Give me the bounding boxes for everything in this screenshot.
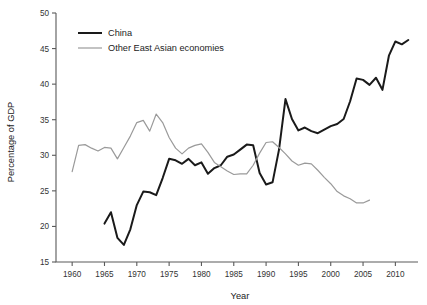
data-series <box>72 40 408 245</box>
x-tick-label: 1980 <box>192 270 211 279</box>
x-tick-label: 1990 <box>257 270 276 279</box>
y-tick-label: 45 <box>40 45 50 54</box>
y-axis-ticks: 1520253035404550 <box>40 9 56 267</box>
x-tick-label: 1965 <box>95 270 114 279</box>
y-tick-label: 35 <box>40 116 50 125</box>
x-tick-label: 1975 <box>160 270 179 279</box>
x-tick-label: 1970 <box>128 270 147 279</box>
y-tick-label: 30 <box>40 151 50 160</box>
chart-legend: ChinaOther East Asian economies <box>78 28 224 53</box>
x-tick-label: 1985 <box>225 270 244 279</box>
x-axis-ticks: 1960196519701975198019851990199520002005… <box>63 262 405 279</box>
legend-label-other-east-asian[interactable]: Other East Asian economies <box>108 43 224 53</box>
chart-container: 1520253035404550 19601965197019751980198… <box>0 0 427 305</box>
x-tick-label: 1995 <box>289 270 308 279</box>
x-tick-label: 2005 <box>354 270 373 279</box>
x-axis-label: Year <box>231 291 250 301</box>
y-tick-label: 20 <box>40 222 50 231</box>
x-tick-label: 2010 <box>386 270 405 279</box>
series-line-china <box>104 40 408 245</box>
y-axis-label: Percentage of GDP <box>6 102 16 183</box>
y-tick-label: 15 <box>40 258 50 267</box>
series-line-other-east-asian <box>72 114 369 203</box>
legend-label-china[interactable]: China <box>108 28 133 38</box>
y-tick-label: 40 <box>40 80 50 89</box>
y-tick-label: 25 <box>40 187 50 196</box>
x-tick-label: 1960 <box>63 270 82 279</box>
line-chart: 1520253035404550 19601965197019751980198… <box>0 0 427 305</box>
y-tick-label: 50 <box>40 9 50 18</box>
x-tick-label: 2000 <box>322 270 341 279</box>
